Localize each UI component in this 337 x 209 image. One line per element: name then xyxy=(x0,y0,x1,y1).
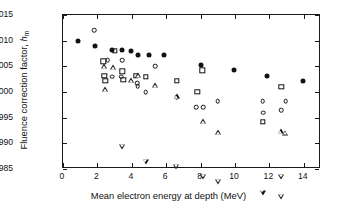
data-point-filled-circle xyxy=(232,68,237,73)
x-axis-tick xyxy=(201,163,202,167)
y-axis-tick xyxy=(63,66,67,67)
data-point-open-triangle-up xyxy=(200,118,206,123)
data-point-open-triangle-up xyxy=(152,83,158,88)
x-axis-tick-label: 0 xyxy=(47,172,77,181)
x-axis-tick xyxy=(304,163,305,167)
data-point-filled-circle xyxy=(128,48,133,53)
data-point-open-triangle-up xyxy=(135,73,141,78)
x-axis-tick xyxy=(201,15,202,19)
x-axis-tick-label: 2 xyxy=(81,172,111,181)
y-axis-tick-label: 1.015 xyxy=(0,10,13,19)
y-axis-tick xyxy=(63,118,67,119)
data-point-open-triangle-up xyxy=(102,87,108,92)
data-point-open-circle xyxy=(105,58,110,63)
x-axis-tick xyxy=(166,15,167,19)
x-axis-tick xyxy=(269,15,270,19)
x-axis-tick xyxy=(235,163,236,167)
data-point-open-square xyxy=(260,119,265,124)
x-axis-tick xyxy=(63,163,64,167)
data-point-filled-circle xyxy=(120,48,125,53)
y-axis-tick xyxy=(63,143,67,144)
data-point-open-triangle-up xyxy=(215,130,221,135)
data-point-open-triangle-up xyxy=(128,78,134,83)
data-point-open-triangle-up xyxy=(174,94,180,99)
x-axis-tick xyxy=(269,163,270,167)
data-point-open-circle xyxy=(143,90,148,95)
data-point-open-triangle-up xyxy=(110,65,116,70)
data-point-open-triangle-down xyxy=(119,145,125,150)
data-point-open-circle xyxy=(110,74,115,79)
y-axis-title-symbol: h xyxy=(18,36,29,41)
x-axis-tick xyxy=(304,15,305,19)
x-axis-tick-label: 4 xyxy=(116,172,146,181)
data-point-open-square xyxy=(120,69,125,74)
data-point-open-circle xyxy=(216,99,221,104)
data-point-open-circle xyxy=(261,110,266,115)
data-point-open-square xyxy=(143,74,148,79)
plot-area xyxy=(63,15,319,167)
data-point-open-triangle-down xyxy=(215,180,221,185)
data-point-open-square xyxy=(120,77,125,82)
y-axis-title: Fluence correction factor, hm xyxy=(18,10,30,170)
x-axis-tick xyxy=(132,15,133,19)
data-point-open-circle xyxy=(260,99,265,104)
data-point-open-circle xyxy=(194,105,199,110)
plot-frame xyxy=(62,14,320,168)
y-axis-tick-label: 0.990 xyxy=(0,138,13,147)
y-axis-tick xyxy=(63,169,67,170)
y-axis-title-subscript: m xyxy=(23,31,30,37)
y-axis-tick xyxy=(315,169,319,170)
data-point-open-square xyxy=(112,48,117,53)
data-point-open-circle xyxy=(283,99,288,104)
data-point-open-circle xyxy=(279,108,284,113)
y-axis-tick-label: 1.010 xyxy=(0,36,13,45)
y-axis-tick xyxy=(315,92,319,93)
data-point-open-triangle-up xyxy=(101,64,107,69)
y-axis-tick xyxy=(63,92,67,93)
y-axis-tick xyxy=(63,41,67,42)
data-point-filled-circle xyxy=(135,53,140,58)
data-point-filled-circle xyxy=(264,73,269,78)
data-point-open-circle xyxy=(201,105,206,110)
data-point-open-square xyxy=(102,78,107,83)
y-axis-tick xyxy=(315,143,319,144)
data-point-open-square xyxy=(279,84,284,89)
data-point-filled-circle xyxy=(92,43,97,48)
data-point-filled-circle xyxy=(76,38,81,43)
x-axis-tick xyxy=(63,15,64,19)
data-point-open-square xyxy=(174,78,179,83)
data-point-open-square xyxy=(194,89,199,94)
y-axis-tick-label: 1.000 xyxy=(0,87,13,96)
x-axis-tick xyxy=(235,15,236,19)
x-axis-tick xyxy=(132,163,133,167)
y-axis-title-main: Fluence correction factor, xyxy=(18,42,29,150)
y-axis-tick-label: 1.005 xyxy=(0,61,13,70)
x-axis-tick-label: 6 xyxy=(150,172,180,181)
x-axis-tick-label: 10 xyxy=(219,172,249,181)
data-point-open-circle xyxy=(153,64,158,69)
y-axis-tick-label: 0.985 xyxy=(0,164,13,173)
data-point-filled-circle xyxy=(147,53,152,58)
y-axis-tick xyxy=(315,66,319,67)
data-point-open-circle xyxy=(92,28,97,33)
x-axis-tick-label: 14 xyxy=(288,172,318,181)
data-point-open-circle xyxy=(136,84,141,89)
x-axis-tick xyxy=(166,163,167,167)
data-point-open-triangle-down xyxy=(173,165,179,170)
x-axis-tick xyxy=(97,163,98,167)
data-point-filled-circle xyxy=(162,53,167,58)
y-axis-tick xyxy=(315,15,319,16)
x-axis-tick-label: 12 xyxy=(253,172,283,181)
y-axis-tick xyxy=(315,118,319,119)
figure: 0.9850.9900.9951.0001.0051.0101.015 0246… xyxy=(0,0,337,209)
data-point-open-square xyxy=(200,68,205,73)
data-point-open-triangle-down xyxy=(143,160,149,165)
y-axis-tick-label: 0.995 xyxy=(0,113,13,122)
y-axis-tick xyxy=(315,41,319,42)
x-axis-tick xyxy=(97,15,98,19)
data-point-open-circle xyxy=(120,58,125,63)
data-point-open-triangle-up xyxy=(282,130,288,135)
data-point-filled-circle xyxy=(300,78,305,83)
x-axis-tick-label: 8 xyxy=(185,172,215,181)
x-axis-title: Mean electron energy at depth (MeV) xyxy=(0,190,337,201)
